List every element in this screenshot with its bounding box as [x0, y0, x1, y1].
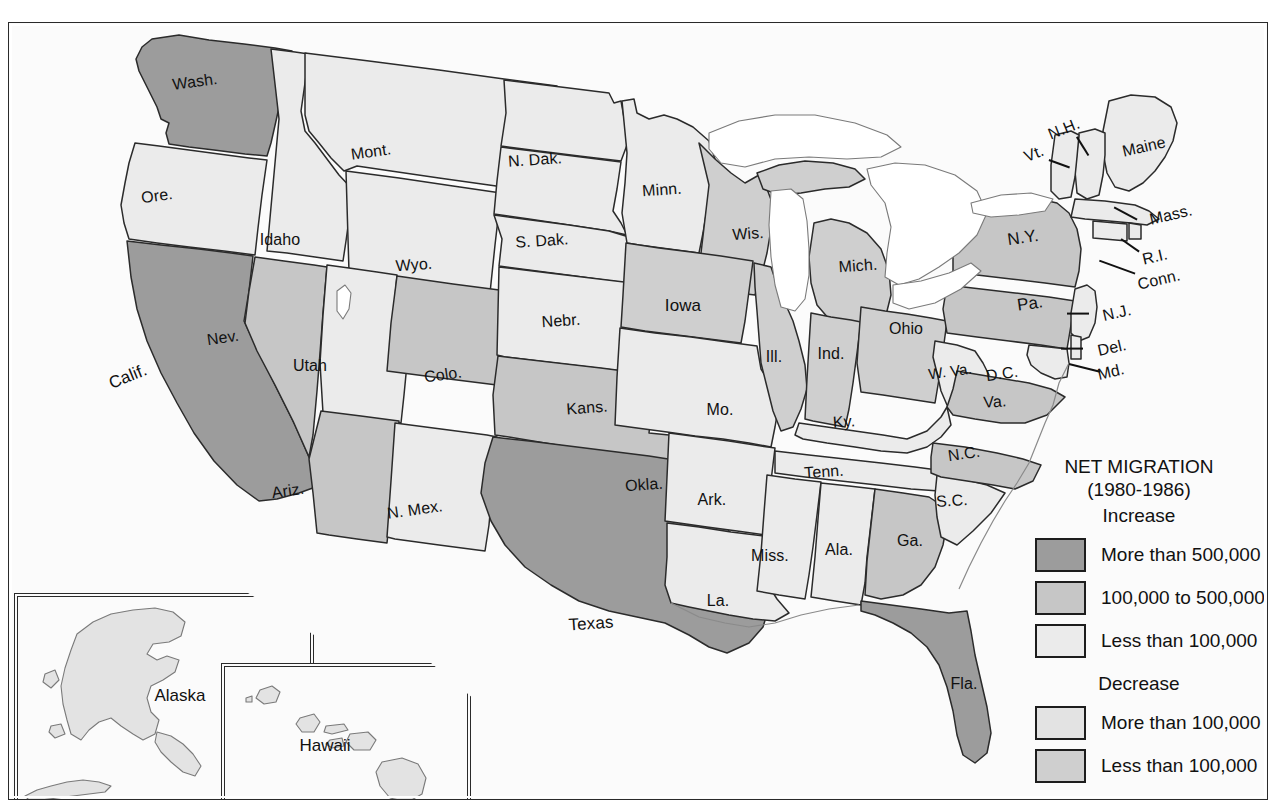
state-shape-mississippi[interactable]: [757, 475, 821, 599]
state-shape-newmexico[interactable]: [387, 423, 497, 551]
legend-title-line1: NET MIGRATION: [1013, 455, 1265, 478]
state-label-fl: Fla.: [950, 675, 977, 693]
legend-row-decrease-lt100k[interactable]: Less than 100,000: [1013, 749, 1265, 783]
legend-label-decrease-lt100k: Less than 100,000: [1101, 755, 1257, 777]
hawaii-oahu: [296, 714, 320, 732]
state-label-sc: S.C.: [936, 491, 969, 511]
alaska-mainland: [61, 608, 185, 740]
hawaii-kauai: [256, 686, 280, 704]
state-label-ky: Ky.: [832, 412, 855, 432]
legend-label-increase-gt500k: More than 500,000: [1101, 544, 1261, 566]
alaska-island-2: [49, 724, 65, 738]
us-map-frame: Wash.Ore.Calif.Nev.IdahoUtahAriz.Mont.Wy…: [8, 22, 1268, 800]
legend-label-increase-lt100k: Less than 100,000: [1101, 630, 1257, 652]
state-shape-arkansas[interactable]: [665, 433, 775, 535]
state-label-mi: Mich.: [838, 256, 878, 277]
alaska-aleutians: [25, 780, 111, 800]
leader-line-del: [1061, 348, 1083, 350]
legend-swatch-increase-gt500k: [1035, 538, 1086, 572]
state-label-va: Va.: [983, 392, 1007, 412]
legend-row-increase-lt100k[interactable]: Less than 100,000: [1013, 624, 1265, 658]
map-page: Wash.Ore.Calif.Nev.IdahoUtahAriz.Mont.Wy…: [0, 0, 1281, 802]
state-label-al: Ala.: [825, 541, 853, 559]
state-label-ia: Iowa: [665, 296, 701, 316]
state-label-sd: S. Dak.: [515, 230, 569, 252]
state-shape-washington[interactable]: [136, 35, 292, 156]
state-label-mn: Minn.: [642, 180, 683, 201]
legend-row-increase-100to500k[interactable]: 100,000 to 500,000: [1013, 581, 1265, 615]
state-label-tn: Tenn.: [804, 462, 845, 483]
state-label-la: La.: [707, 592, 730, 610]
legend-swatch-increase-100to500k: [1035, 581, 1086, 615]
legend-label-increase-100to500k: 100,000 to 500,000: [1101, 587, 1265, 609]
legend-heading-decrease: Decrease: [1013, 671, 1265, 697]
state-label-ga: Ga.: [897, 532, 923, 550]
map-legend: NET MIGRATION (1980-1986) Increase More …: [1013, 455, 1265, 783]
state-label-ms: Miss.: [751, 547, 789, 565]
legend-title-line2: (1980-1986): [1013, 478, 1265, 501]
state-label-ut: Utah: [293, 357, 327, 375]
alaska-inset-label: Alaska: [154, 686, 205, 706]
legend-swatch-increase-lt100k: [1035, 624, 1086, 658]
state-label-tx: Texas: [568, 612, 614, 635]
state-shape-minnesota[interactable]: [622, 99, 715, 253]
legend-row-increase-gt500k[interactable]: More than 500,000: [1013, 538, 1265, 572]
hawaii-bigisland: [376, 758, 426, 800]
alaska-island-1: [43, 670, 59, 688]
state-label-in: Ind.: [817, 345, 844, 363]
state-label-il: Ill.: [766, 348, 782, 366]
hawaii-molokai: [324, 724, 348, 734]
state-label-ne: Nebr.: [541, 311, 581, 332]
state-label-ks: Kans.: [566, 398, 609, 419]
legend-heading-increase: Increase: [1013, 503, 1265, 529]
state-shape-maryland[interactable]: [1027, 345, 1069, 379]
hawaii-inset-label: Hawaii: [299, 736, 350, 756]
state-label-pa: Pa.: [1016, 292, 1044, 315]
state-label-mo: Mo.: [707, 401, 734, 419]
state-shape-massachusetts[interactable]: [1071, 199, 1159, 225]
leader-line-nj: [1067, 313, 1089, 315]
state-label-id: Idaho: [260, 231, 301, 249]
state-label-ok: Okla.: [624, 475, 663, 496]
state-shape-pennsylvania[interactable]: [943, 285, 1075, 349]
legend-swatch-decrease-lt100k: [1035, 749, 1086, 783]
hawaii-inset[interactable]: Hawaii: [221, 663, 471, 800]
hawaii-maui: [346, 732, 376, 750]
legend-swatch-decrease-gt100k: [1035, 706, 1086, 740]
state-label-oh: Ohio: [889, 320, 923, 338]
state-shape-delaware[interactable]: [1071, 335, 1081, 359]
hawaii-shape-svg: [222, 664, 472, 800]
hawaii-lanai: [326, 738, 344, 748]
state-shape-iowa[interactable]: [621, 243, 753, 343]
state-label-wy: Wyo.: [395, 255, 433, 276]
state-shape-michigan-up[interactable]: [757, 161, 865, 195]
state-shape-rhodeisland[interactable]: [1129, 223, 1141, 239]
state-label-wi: Wis.: [732, 224, 765, 244]
lake-superior: [709, 115, 901, 167]
legend-label-decrease-gt100k: More than 100,000: [1101, 712, 1261, 734]
state-shape-indiana[interactable]: [805, 313, 861, 427]
hawaii-dot: [246, 696, 252, 702]
alaska-panhandle: [155, 732, 201, 776]
state-shape-arizona[interactable]: [309, 411, 399, 543]
legend-row-decrease-gt100k[interactable]: More than 100,000: [1013, 706, 1265, 740]
state-label-nd: N. Dak.: [507, 149, 562, 171]
state-label-ar: Ark.: [698, 491, 727, 509]
